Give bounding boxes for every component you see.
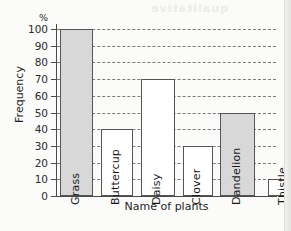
y-tick-label-90: 90 bbox=[20, 41, 48, 52]
bar-grass bbox=[60, 29, 93, 196]
y-tick-label-0: 0 bbox=[20, 191, 48, 202]
y-tick-label-30: 30 bbox=[20, 141, 48, 152]
y-tick-label-10: 10 bbox=[20, 174, 48, 185]
bar-label-dandelion: Dandelion bbox=[230, 147, 243, 205]
y-tick-label-20: 20 bbox=[20, 158, 48, 169]
plot-area: GrassButtercupDaisyCloverDandelionThistl… bbox=[57, 29, 276, 196]
y-tick-label-80: 80 bbox=[20, 57, 48, 68]
page-edge bbox=[284, 0, 291, 231]
y-tick-label-50: 50 bbox=[20, 108, 48, 119]
page-bleedthrough-text: qualitative bbox=[150, 2, 228, 15]
gridline-0 bbox=[57, 196, 276, 197]
y-tick-label-60: 60 bbox=[20, 91, 48, 102]
y-axis-unit-label: % bbox=[20, 12, 48, 23]
y-tick-label-70: 70 bbox=[20, 74, 48, 85]
x-axis-title: Name of plants bbox=[57, 200, 276, 213]
bar-label-buttercup: Buttercup bbox=[109, 149, 122, 205]
scanned-page: qualitative % Frequency 0102030405060708… bbox=[0, 0, 291, 231]
y-tick-label-40: 40 bbox=[20, 124, 48, 135]
y-tick-label-100: 100 bbox=[20, 24, 48, 35]
